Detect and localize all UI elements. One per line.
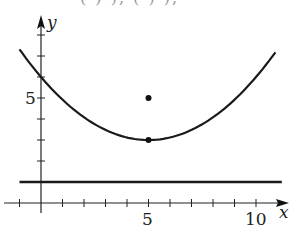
x-axis-label: x: [279, 204, 289, 221]
chart-plot: [0, 0, 297, 241]
data-point: [146, 137, 152, 143]
parabola-curve: [20, 49, 276, 140]
x-tick-label-5: 5: [142, 211, 153, 228]
y-tick-label-5: 5: [25, 90, 36, 107]
x-tick-label-10: 10: [245, 211, 267, 228]
data-point: [146, 95, 152, 101]
y-axis-label: y: [47, 14, 57, 31]
